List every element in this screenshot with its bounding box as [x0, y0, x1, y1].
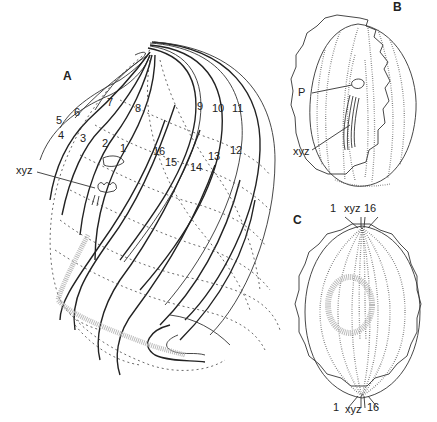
c-top-label-xyz: xyz — [344, 203, 361, 214]
row-number-3: 3 — [80, 133, 86, 144]
panel-c-drawing — [295, 217, 421, 408]
c-bottom-label-16: 16 — [367, 402, 379, 413]
row-number-4: 4 — [58, 130, 64, 141]
row-number-14: 14 — [190, 162, 202, 173]
row-number-15: 15 — [165, 157, 177, 168]
row-number-9: 9 — [197, 101, 203, 112]
row-number-5: 5 — [56, 115, 62, 126]
row-number-6: 6 — [74, 107, 80, 118]
c-bottom-label-1: 1 — [333, 402, 339, 413]
row-number-7: 7 — [107, 97, 113, 108]
row-number-1: 1 — [120, 143, 126, 154]
xyz-label-b: xyz — [293, 146, 310, 157]
xyz-label-a: xyz — [16, 165, 33, 176]
row-number-10: 10 — [212, 103, 224, 114]
panel-label-b: B — [393, 0, 402, 14]
row-number-12: 12 — [230, 145, 242, 156]
row-number-8: 8 — [135, 103, 141, 114]
row-number-11: 11 — [232, 103, 243, 114]
panel-b-drawing — [291, 15, 416, 186]
c-top-label-16: 16 — [364, 203, 376, 214]
c-bottom-label-xyz: xyz — [345, 404, 362, 415]
row-number-13: 13 — [208, 151, 220, 162]
c-top-label-1: 1 — [330, 203, 336, 214]
panel-label-a: A — [63, 69, 72, 83]
row-number-16: 16 — [153, 146, 165, 157]
row-number-2: 2 — [102, 138, 108, 149]
panel-a-drawing — [37, 42, 280, 375]
panel-label-c: C — [293, 213, 302, 227]
p-label: P — [298, 87, 305, 98]
